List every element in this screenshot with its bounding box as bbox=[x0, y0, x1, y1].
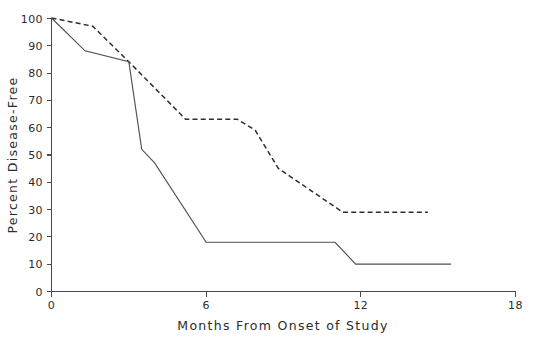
solid-series-line bbox=[52, 18, 452, 264]
y-axis-title: Percent Disease-Free bbox=[5, 76, 20, 233]
survival-curve-figure: 100 90 80 70 60 50 40 30 20 10 0 0 6 12 … bbox=[0, 0, 541, 338]
chart-canvas: 100 90 80 70 60 50 40 30 20 10 0 0 6 12 … bbox=[0, 0, 541, 338]
dashed-series-line bbox=[52, 18, 428, 212]
x-tick-label: 18 bbox=[508, 299, 523, 312]
y-tick-label: 60 bbox=[28, 122, 43, 135]
x-tick-label: 0 bbox=[48, 299, 55, 312]
x-axis-ticks bbox=[52, 292, 516, 297]
y-tick-label: 30 bbox=[28, 204, 43, 217]
y-tick-label: 0 bbox=[36, 286, 43, 299]
x-tick-label: 12 bbox=[353, 299, 368, 312]
x-axis-title: Months From Onset of Study bbox=[177, 318, 388, 333]
y-tick-label: 70 bbox=[28, 94, 43, 107]
y-tick-label: 10 bbox=[28, 258, 43, 271]
y-tick-label: 100 bbox=[21, 13, 43, 26]
y-tick-label: 50 bbox=[28, 149, 43, 162]
x-axis-tick-labels: 0 6 12 18 bbox=[48, 299, 523, 312]
y-tick-label: 80 bbox=[28, 67, 43, 80]
x-tick-label: 6 bbox=[202, 299, 209, 312]
y-axis-tick-labels: 100 90 80 70 60 50 40 30 20 10 0 bbox=[21, 13, 43, 299]
y-tick-label: 90 bbox=[28, 40, 43, 53]
y-tick-label: 40 bbox=[28, 176, 43, 189]
y-tick-label: 20 bbox=[28, 231, 43, 244]
y-axis-ticks bbox=[47, 19, 52, 292]
